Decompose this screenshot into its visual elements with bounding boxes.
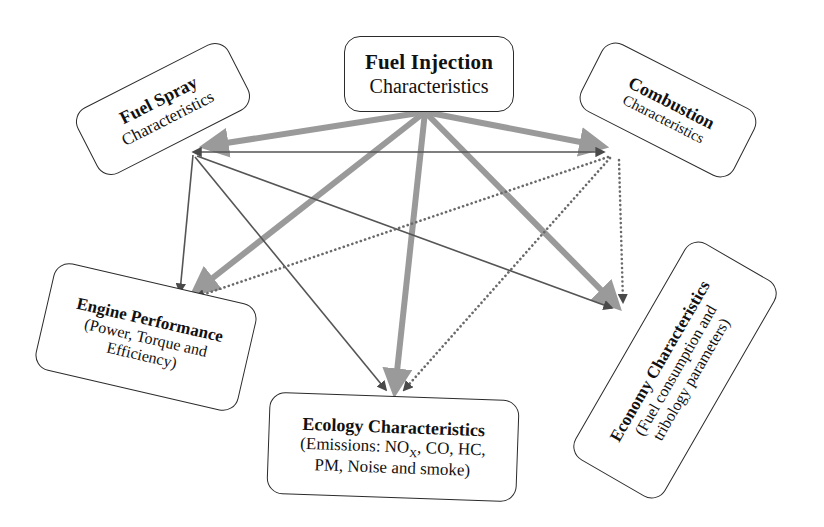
node-fuel-injection-title: Fuel Injection xyxy=(365,51,493,75)
node-ecology[interactable]: Ecology Characteristics (Emissions: NOX,… xyxy=(266,392,519,503)
edge-combustion-to-economy xyxy=(619,160,623,302)
node-ecology-line2-pre: (Emissions: NO xyxy=(300,433,410,456)
node-ecology-line2-post: , CO, HC, xyxy=(417,438,486,459)
diagram-canvas: Fuel Injection Characteristics Fuel Spra… xyxy=(0,0,824,527)
edge-injection-to-ecology xyxy=(395,112,425,390)
node-fuel-injection-subtitle: Characteristics xyxy=(365,75,493,97)
node-fuel-injection[interactable]: Fuel Injection Characteristics xyxy=(344,36,514,112)
edge-spray-to-engine xyxy=(180,155,193,292)
edge-injection-to-engine xyxy=(196,112,425,291)
